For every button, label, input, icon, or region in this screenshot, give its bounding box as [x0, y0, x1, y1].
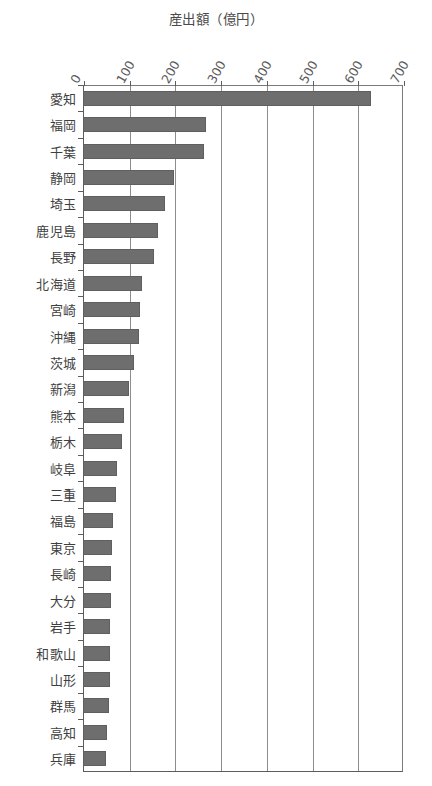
- x-tick-label: 400: [250, 58, 275, 86]
- y-tick-label: 宮崎: [50, 300, 83, 319]
- x-tick-label: 700: [387, 58, 412, 86]
- x-tick-label: 100: [113, 58, 138, 86]
- bar: [83, 355, 134, 370]
- y-tick-label: 鹿児島: [36, 221, 83, 240]
- bars-layer: [83, 85, 403, 772]
- bar-row: [83, 111, 403, 137]
- x-tick-mark: [404, 81, 405, 86]
- y-axis-category-labels: 愛知福岡千葉静岡埼玉鹿児島長野北海道宮崎沖縄茨城新潟熊本栃木岐阜三重福島東京長崎…: [0, 85, 83, 772]
- y-label-row: 茨城: [0, 349, 83, 375]
- y-label-row: 宮崎: [0, 296, 83, 322]
- bar-row: [83, 508, 403, 534]
- y-label-row: 栃木: [0, 428, 83, 454]
- bar: [83, 117, 206, 132]
- y-tick-label: 群馬: [50, 696, 83, 715]
- bar: [83, 751, 106, 766]
- y-label-row: 岩手: [0, 613, 83, 639]
- bar: [83, 302, 140, 317]
- bar: [83, 487, 116, 502]
- bar: [83, 91, 371, 106]
- y-tick-label: 埼玉: [50, 194, 83, 213]
- bar: [83, 461, 117, 476]
- bar: [83, 223, 158, 238]
- bar: [83, 381, 129, 396]
- bar-row: [83, 402, 403, 428]
- y-label-row: 和歌山: [0, 640, 83, 666]
- bar: [83, 513, 113, 528]
- y-tick-label: 栃木: [50, 432, 83, 451]
- y-label-row: 大分: [0, 587, 83, 613]
- bar: [83, 725, 107, 740]
- bar-row: [83, 296, 403, 322]
- bar-row: [83, 746, 403, 772]
- bar: [83, 619, 110, 634]
- y-label-row: 福岡: [0, 111, 83, 137]
- chart-title: 産出額（億円）: [0, 8, 432, 28]
- y-label-row: 群馬: [0, 693, 83, 719]
- bar: [83, 540, 112, 555]
- y-tick-label: 山形: [50, 670, 83, 689]
- bar: [83, 276, 142, 291]
- y-label-row: 長崎: [0, 561, 83, 587]
- bar-row: [83, 455, 403, 481]
- y-label-row: 三重: [0, 481, 83, 507]
- bar-row: [83, 217, 403, 243]
- bar-row: [83, 85, 403, 111]
- y-tick-label: 新潟: [50, 379, 83, 398]
- bar: [83, 593, 111, 608]
- y-tick-label: 大分: [50, 591, 83, 610]
- y-tick-label: 岩手: [50, 617, 83, 636]
- x-tick-label: 500: [296, 58, 321, 86]
- bar: [83, 329, 139, 344]
- y-tick-label: 長野: [50, 247, 83, 266]
- y-label-row: 静岡: [0, 164, 83, 190]
- bar: [83, 144, 204, 159]
- bar-row: [83, 693, 403, 719]
- y-tick-label: 長崎: [50, 564, 83, 583]
- y-label-row: 沖縄: [0, 323, 83, 349]
- bar: [83, 170, 174, 185]
- y-tick-label: 兵庫: [50, 749, 83, 768]
- y-tick-label: 千葉: [50, 142, 83, 161]
- y-tick-label: 北海道: [36, 274, 83, 293]
- bar-row: [83, 270, 403, 296]
- y-tick-label: 茨城: [50, 353, 83, 372]
- y-tick-label: 三重: [50, 485, 83, 504]
- y-label-row: 埼玉: [0, 191, 83, 217]
- x-tick-label: 600: [341, 58, 366, 86]
- bar: [83, 698, 109, 713]
- bar-row: [83, 164, 403, 190]
- bar: [83, 408, 124, 423]
- bar-row: [83, 719, 403, 745]
- bar-row: [83, 376, 403, 402]
- y-label-row: 東京: [0, 534, 83, 560]
- bar: [83, 646, 110, 661]
- y-tick-label: 沖縄: [50, 327, 83, 346]
- x-tick-label: 300: [204, 58, 229, 86]
- y-tick-label: 高知: [50, 723, 83, 742]
- x-tick-label: 0: [67, 72, 84, 86]
- bar-row: [83, 349, 403, 375]
- y-label-row: 北海道: [0, 270, 83, 296]
- y-tick-label: 静岡: [50, 168, 83, 187]
- y-label-row: 千葉: [0, 138, 83, 164]
- y-tick-label: 東京: [50, 538, 83, 557]
- y-label-row: 鹿児島: [0, 217, 83, 243]
- x-tick-label: 200: [158, 58, 183, 86]
- y-tick-label: 福島: [50, 511, 83, 530]
- y-label-row: 愛知: [0, 85, 83, 111]
- bar-chart: 産出額（億円） 0100200300400500600700 愛知福岡千葉静岡埼…: [0, 0, 432, 786]
- bar-row: [83, 428, 403, 454]
- bar-row: [83, 481, 403, 507]
- y-tick-label: 熊本: [50, 406, 83, 425]
- bar-row: [83, 613, 403, 639]
- y-label-row: 熊本: [0, 402, 83, 428]
- bar: [83, 672, 110, 687]
- bar-row: [83, 561, 403, 587]
- bar-row: [83, 666, 403, 692]
- bar-row: [83, 138, 403, 164]
- y-label-row: 岐阜: [0, 455, 83, 481]
- y-tick-label: 岐阜: [50, 459, 83, 478]
- bar: [83, 566, 111, 581]
- y-tick-label: 福岡: [50, 115, 83, 134]
